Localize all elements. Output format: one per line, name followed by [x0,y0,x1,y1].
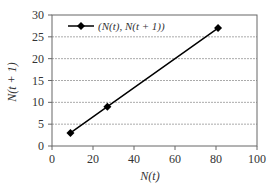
diamond-marker-icon [77,22,85,30]
legend-label: (N(t), N(t + 1)) [98,20,165,33]
x-tick-label: 40 [128,152,140,166]
y-tick-label: 30 [32,8,44,22]
y-tick-label: 25 [32,30,44,44]
x-axis-title: N(t) [139,169,159,183]
legend: (N(t), N(t + 1)) [68,20,165,33]
x-tick-label: 100 [248,152,266,166]
y-tick-label: 10 [32,95,44,109]
y-axis-ticks: 051015202530 [32,8,52,153]
x-tick-label: 20 [87,152,99,166]
y-tick-label: 20 [32,52,44,66]
y-tick-label: 15 [32,74,44,88]
x-tick-label: 60 [169,152,181,166]
y-tick-label: 0 [38,139,44,153]
x-tick-label: 80 [210,152,222,166]
y-axis-title: N(t + 1) [5,62,19,102]
x-tick-label: 0 [49,152,55,166]
gridlines [52,37,257,124]
y-tick-label: 5 [38,117,44,131]
chart: 051015202530 020406080100 (N(t), N(t + 1… [0,0,278,195]
x-axis-ticks: 020406080100 [49,146,266,166]
